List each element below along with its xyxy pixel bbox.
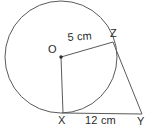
geometry-figure: O Z X Y 5 cm 12 cm <box>0 0 152 133</box>
geometry-drawing <box>0 0 152 133</box>
point-label-x: X <box>58 115 65 126</box>
tangent-line-zy <box>113 42 142 114</box>
point-label-o: O <box>48 44 57 55</box>
point-label-y: Y <box>137 116 144 127</box>
measurement-label-radius: 5 cm <box>67 30 92 43</box>
radius-line-ox <box>61 57 63 113</box>
radius-line-oz <box>61 42 113 57</box>
center-point-dot <box>59 55 62 58</box>
measurement-label-tangent: 12 cm <box>85 115 116 126</box>
point-label-z: Z <box>110 28 117 39</box>
